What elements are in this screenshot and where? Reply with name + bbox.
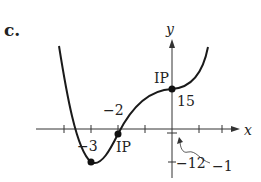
- y-axis-arrow-icon: [169, 39, 175, 48]
- leader-arrow-icon: [177, 137, 183, 144]
- lower-inflection-point: [115, 131, 122, 138]
- part-label: c.: [4, 22, 20, 39]
- x-axis-arrow-icon: [231, 126, 240, 132]
- value-neg3-label: −3: [77, 139, 98, 153]
- x-axis-label: x: [244, 123, 252, 137]
- value-15-label: 15: [177, 94, 195, 108]
- upper-inflection-point: [169, 86, 176, 93]
- upper-ip-label: IP: [154, 71, 169, 85]
- lower-ip-label: IP: [116, 140, 131, 154]
- y-axis-label: y: [166, 22, 174, 36]
- value-neg2-label: −2: [103, 103, 124, 117]
- minimum-point: [88, 159, 95, 166]
- value-neg1-label: −1: [212, 159, 233, 173]
- value-neg12-label: −12: [176, 156, 206, 170]
